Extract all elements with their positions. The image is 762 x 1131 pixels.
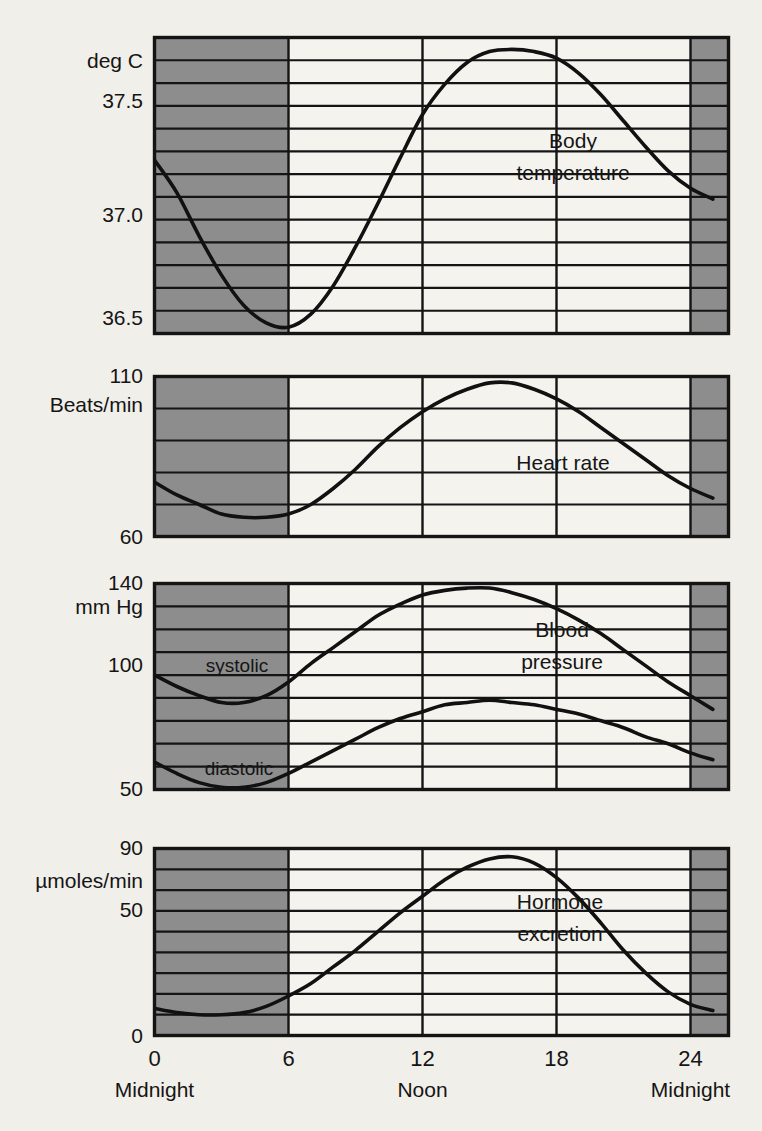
day-region: [289, 849, 691, 1036]
x-tick-name-24: Midnight: [651, 1078, 731, 1101]
series-label-body-temperature: Body: [549, 129, 597, 152]
x-tick-label-0: 0: [148, 1046, 160, 1071]
x-tick-name-0: Midnight: [115, 1078, 195, 1101]
series-label-body-temperature-line2: temperature: [516, 161, 629, 184]
inline-label-systolic: systolic: [206, 655, 268, 676]
series-label-hormone-excretion-line2: excretion: [517, 922, 602, 945]
series-label-hormone-excretion: Hormone: [517, 890, 603, 913]
y-tick-label-hormone-excretion-90: 90: [120, 836, 143, 859]
x-tick-label-12: 12: [410, 1046, 434, 1071]
x-tick-label-6: 6: [282, 1046, 294, 1071]
y-tick-label-blood-pressure-100: 100: [108, 653, 143, 676]
y-axis-unit-label-hormone-excretion: µmoles/min: [35, 869, 143, 892]
y-tick-label-hormone-excretion-50: 50: [120, 898, 143, 921]
night-shading-region-1: [691, 38, 729, 334]
inline-label-diastolic: diastolic: [205, 758, 274, 779]
series-label-blood-pressure: Blood: [535, 618, 589, 641]
y-tick-label-heart-rate-60: 60: [120, 525, 143, 548]
panel-body-temperature: [155, 38, 729, 334]
y-tick-label-body-temperature-37.0: 37.0: [102, 203, 143, 226]
y-tick-label-heart-rate-110: 110: [110, 364, 143, 387]
panel-heart-rate: [155, 377, 729, 537]
y-tick-label-blood-pressure-50: 50: [120, 777, 143, 800]
panel-hormone-excretion: [155, 849, 729, 1036]
y-axis-unit-label-body-temperature: deg C: [87, 49, 143, 72]
series-label-blood-pressure-line2: pressure: [521, 650, 603, 673]
chart-canvas: deg C37.537.036.5Beats/min11060mm Hg1401…: [0, 0, 762, 1131]
day-region: [289, 584, 691, 790]
x-tick-label-24: 24: [678, 1046, 702, 1071]
y-tick-label-hormone-excretion-0: 0: [131, 1024, 143, 1047]
night-shading-region-0: [155, 38, 289, 334]
day-region: [289, 377, 691, 537]
y-axis-unit-label-heart-rate: Beats/min: [50, 393, 143, 416]
circadian-rhythm-figure: deg C37.537.036.5Beats/min11060mm Hg1401…: [0, 0, 762, 1131]
y-tick-label-body-temperature-36.5: 36.5: [102, 306, 143, 329]
series-label-heart-rate: Heart rate: [516, 451, 609, 474]
y-tick-label-body-temperature-37.5: 37.5: [102, 89, 143, 112]
y-tick-label-blood-pressure-140: 140: [108, 571, 143, 594]
y-axis-unit-label-blood-pressure: mm Hg: [75, 595, 143, 618]
x-tick-name-12: Noon: [397, 1078, 447, 1101]
night-shading-region-1: [691, 377, 729, 537]
day-region: [289, 38, 691, 334]
x-tick-label-18: 18: [544, 1046, 568, 1071]
